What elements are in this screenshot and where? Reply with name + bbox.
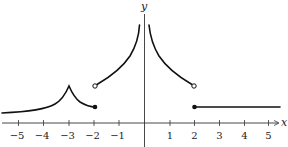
tick-label: 1 xyxy=(167,130,173,141)
x-tick-labels: −5 −4 −3 −2 −1 1 2 3 4 5 xyxy=(10,130,272,141)
x-axis: x xyxy=(2,116,288,129)
tick-label: −3 xyxy=(60,130,75,141)
function-graph: x y −5 −4 −3 −2 −1 1 2 3 4 5 xyxy=(0,0,288,147)
open-circle-icon xyxy=(93,84,97,88)
tick-label: 4 xyxy=(241,130,247,141)
tick-label: −5 xyxy=(10,130,25,141)
tick-label: −2 xyxy=(85,130,100,141)
curve-left-branch xyxy=(97,25,140,85)
y-axis: y xyxy=(140,0,148,147)
curve-left-tail-with-cusp xyxy=(2,86,95,113)
tick-label: −1 xyxy=(110,130,125,141)
tick-label: 5 xyxy=(265,130,271,141)
x-axis-label: x xyxy=(281,116,288,129)
closed-dot-icon xyxy=(192,105,197,110)
closed-dot-icon xyxy=(93,105,98,110)
tick-label: −4 xyxy=(35,130,50,141)
curve-right-branch xyxy=(149,25,192,85)
curves xyxy=(2,25,280,113)
y-axis-label: y xyxy=(140,0,148,13)
open-circle-icon xyxy=(192,84,196,88)
tick-label: 3 xyxy=(216,130,222,141)
tick-label: 2 xyxy=(191,130,197,141)
